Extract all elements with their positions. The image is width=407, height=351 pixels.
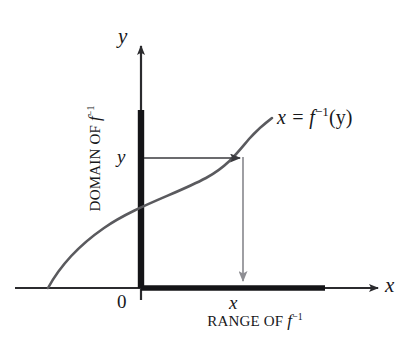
range-label-exponent: −1 [292, 311, 303, 322]
domain-label-exponent: −1 [85, 106, 96, 117]
inverse-function-diagram: y x 0 y x x = f−1(y) DOMAIN OF f−1 RANGE… [0, 0, 407, 351]
inverse-function-curve [48, 118, 272, 288]
range-label-text: RANGE OF [207, 313, 287, 329]
diagram-canvas [0, 0, 407, 351]
curve-equation-prefix: x = f [277, 106, 315, 128]
x-value-label: x [229, 293, 237, 312]
curve-equation-argument: (y) [329, 106, 352, 128]
domain-label: DOMAIN OF f−1 [86, 64, 103, 254]
y-value-label: y [117, 147, 125, 166]
x-axis-label: x [385, 275, 394, 296]
domain-label-text: DOMAIN OF [87, 121, 103, 211]
range-label: RANGE OF f−1 [150, 312, 360, 329]
domain-label-function: f [85, 116, 104, 121]
y-axis-label: y [118, 26, 127, 47]
curve-equation-label: x = f−1(y) [277, 105, 352, 127]
origin-label: 0 [117, 292, 127, 311]
curve-equation-exponent: −1 [315, 104, 329, 119]
